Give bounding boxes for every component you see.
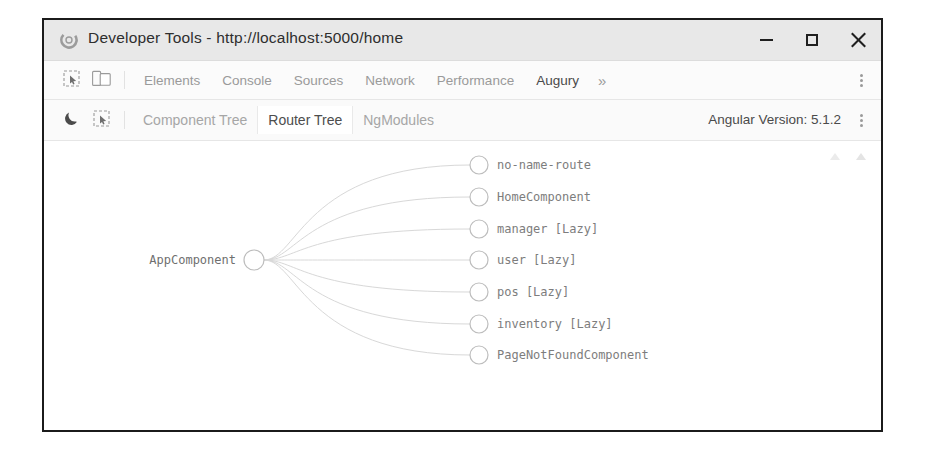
window-titlebar: Developer Tools - http://localhost:5000/… (44, 20, 881, 61)
maximize-button[interactable] (789, 20, 835, 60)
tree-edge (264, 197, 470, 260)
tree-edge (264, 260, 470, 355)
tree-node[interactable] (470, 346, 488, 364)
tree-node[interactable] (470, 188, 488, 206)
augury-tab-router-tree[interactable]: Router Tree (257, 106, 353, 134)
tree-node-label: PageNotFoundComponent (497, 348, 649, 362)
chrome-icon (60, 31, 78, 49)
augury-toolbar-divider (124, 111, 125, 129)
tree-node-label: no-name-route (497, 158, 591, 172)
tree-node-label: HomeComponent (497, 190, 591, 204)
screenshot-root: Developer Tools - http://localhost:5000/… (0, 0, 925, 451)
tree-node-root[interactable] (244, 250, 264, 270)
inspect-element-button[interactable] (56, 67, 86, 93)
tree-node-label: inventory [Lazy] (497, 317, 613, 331)
dark-mode-button[interactable] (56, 107, 86, 133)
window-title: Developer Tools - http://localhost:5000/… (88, 29, 403, 47)
tree-node-label: pos [Lazy] (497, 285, 569, 299)
tree-node-label: manager [Lazy] (497, 222, 598, 236)
devtools-tab-elements[interactable]: Elements (133, 69, 211, 92)
device-toolbar-button[interactable] (86, 67, 116, 93)
augury-toolbar: Component Tree Router Tree NgModules Ang… (44, 100, 881, 141)
tree-node[interactable] (470, 315, 488, 333)
inspect-element-icon (63, 70, 80, 91)
router-tree-graph (44, 141, 881, 432)
tree-edges (264, 165, 470, 355)
kebab-menu-icon[interactable] (860, 114, 863, 127)
augury-tab-component-tree[interactable]: Component Tree (133, 106, 257, 134)
tree-node-label-root: AppComponent (149, 253, 236, 267)
kebab-menu-icon[interactable] (860, 74, 863, 87)
close-icon (850, 32, 866, 48)
devtools-tab-augury[interactable]: Augury (525, 69, 590, 92)
augury-tab-ngmodules[interactable]: NgModules (353, 106, 444, 134)
dark-mode-moon-icon (63, 110, 80, 131)
devtools-window: Developer Tools - http://localhost:5000/… (42, 18, 883, 432)
devtools-tab-performance[interactable]: Performance (426, 69, 525, 92)
minimize-button[interactable] (743, 20, 789, 60)
router-tree-canvas[interactable]: AppComponentno-name-routeHomeComponentma… (44, 141, 881, 432)
tree-edge (264, 165, 470, 260)
devtools-toolbar: Elements Console Sources Network Perform… (44, 61, 881, 100)
tree-node[interactable] (470, 156, 488, 174)
devtools-tab-console[interactable]: Console (211, 69, 283, 92)
minimize-icon (760, 39, 773, 41)
tree-node[interactable] (470, 251, 488, 269)
inspect-component-icon (93, 110, 110, 131)
window-controls (743, 20, 881, 60)
device-toolbar-icon (92, 70, 111, 91)
devtools-tab-sources[interactable]: Sources (283, 69, 355, 92)
inspect-component-button[interactable] (86, 107, 116, 133)
angular-version-label: Angular Version: 5.1.2 (708, 112, 841, 127)
devtools-tabs-overflow-button[interactable]: » (590, 72, 616, 89)
close-button[interactable] (835, 20, 881, 60)
tree-node[interactable] (470, 220, 488, 238)
devtools-tab-network[interactable]: Network (354, 69, 426, 92)
maximize-icon (806, 34, 818, 46)
toolbar-divider (124, 71, 125, 89)
tree-node[interactable] (470, 283, 488, 301)
tree-node-label: user [Lazy] (497, 253, 576, 267)
